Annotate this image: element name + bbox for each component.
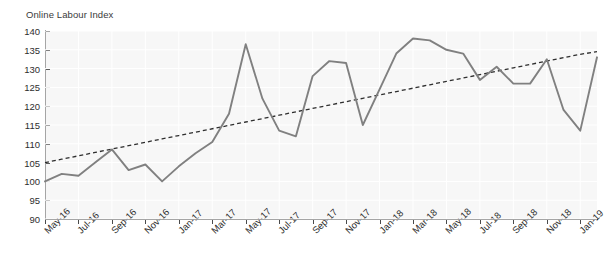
gridlines xyxy=(45,31,597,219)
online-labour-index-chart: Online Labour Index 90951001051101151201… xyxy=(0,0,615,262)
chart-canvas xyxy=(0,0,615,262)
online-labour-index-series xyxy=(45,39,597,182)
